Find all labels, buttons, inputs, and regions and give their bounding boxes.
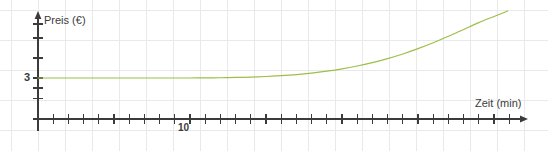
x-axis-title: Zeit (min) [475,97,521,109]
x-tick-label-10: 10 [178,122,189,133]
price-time-chart: Preis (€) Zeit (min) 3 10 [0,0,548,151]
y-axis-title: Preis (€) [44,14,86,26]
price-curve [38,11,508,78]
y-tick-label-3: 3 [24,71,30,83]
